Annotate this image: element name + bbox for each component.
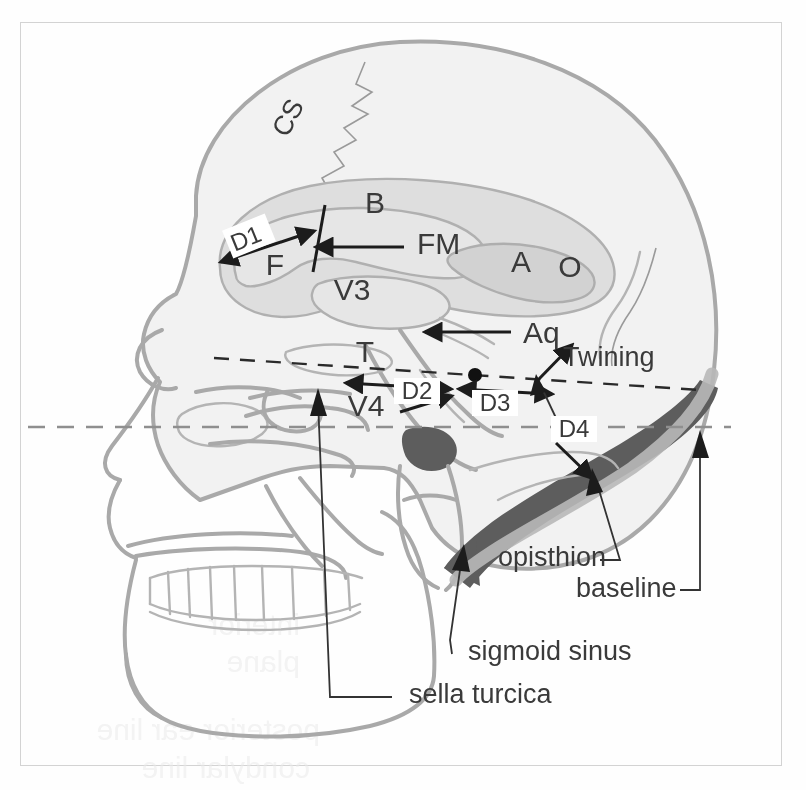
label-t: T xyxy=(356,335,374,368)
twining-midpoint-dot xyxy=(468,368,482,382)
label-a: A xyxy=(511,245,531,278)
svg-text:interior: interior xyxy=(208,608,300,641)
label-d3: D3 xyxy=(480,389,511,416)
svg-text:posterior ear line: posterior ear line xyxy=(97,713,320,746)
svg-text:plane: plane xyxy=(227,645,300,678)
teeth xyxy=(150,566,362,630)
label-sella-turcica: sella turcica xyxy=(409,679,553,709)
label-baseline: baseline xyxy=(576,573,677,603)
figure-canvas: interior plane posterior ear line condyl… xyxy=(0,0,806,790)
label-f: F xyxy=(266,248,284,281)
svg-text:condylar line: condylar line xyxy=(142,751,310,784)
label-d2: D2 xyxy=(402,377,433,404)
label-b: B xyxy=(365,186,385,219)
label-d4: D4 xyxy=(559,415,590,442)
label-o: O xyxy=(558,250,581,283)
label-opisthion: opisthion xyxy=(498,542,606,572)
label-fm: FM xyxy=(417,227,460,260)
label-v4: V4 xyxy=(348,389,385,422)
label-v3: V3 xyxy=(334,273,371,306)
label-sigmoid-sinus: sigmoid sinus xyxy=(468,636,632,666)
bleed-through-text: interior plane posterior ear line condyl… xyxy=(97,608,320,784)
label-aq: Aq xyxy=(523,316,560,349)
label-twining: Twining xyxy=(563,342,655,372)
anatomical-diagram: interior plane posterior ear line condyl… xyxy=(0,0,806,790)
